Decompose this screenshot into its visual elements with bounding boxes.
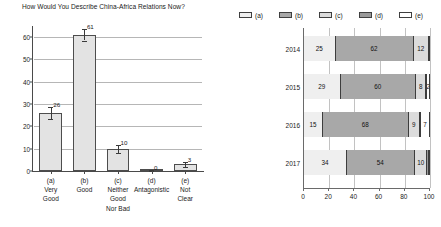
right-x-axis xyxy=(303,188,430,189)
y-axis-tick-label: 40 xyxy=(23,78,30,85)
legend-swatch-icon xyxy=(399,12,412,18)
x-axis-tick-label: 40 xyxy=(350,193,357,200)
legend-label: (d) xyxy=(375,12,383,19)
stacked-bar-segment: 10 xyxy=(415,150,428,175)
stacked-bar-segment: 68 xyxy=(323,112,409,137)
x-axis-tick-mark xyxy=(152,171,153,174)
error-bar xyxy=(84,29,85,40)
segment-value-label: 9 xyxy=(412,121,416,128)
y-axis-tick-label: 50 xyxy=(23,56,30,63)
y-axis-tick-mark xyxy=(30,104,33,105)
bar-value-label: 61 xyxy=(87,23,94,30)
y-axis-tick-mark xyxy=(30,59,33,60)
right-chart-legend: (a)(b)(c)(d)(e) xyxy=(239,9,439,21)
legend-swatch-icon xyxy=(239,12,252,18)
stacked-bar-chart-panel: (a)(b)(c)(d)(e) 256212201429608220151568… xyxy=(215,0,441,227)
x-axis-tick-label: 60 xyxy=(375,193,382,200)
x-axis-tick-mark xyxy=(303,188,304,191)
segment-value-label: 12 xyxy=(417,45,424,52)
legend-swatch-icon xyxy=(319,12,332,18)
error-bar-cap xyxy=(82,41,87,42)
legend-label: (e) xyxy=(415,12,423,19)
y-axis-tick-label: 20 xyxy=(23,123,30,130)
x-axis-tick-label: 0 xyxy=(301,193,305,200)
stacked-bar-segment: 15 xyxy=(304,112,323,137)
y-axis-tick-mark xyxy=(30,126,33,127)
row-year-label: 2016 xyxy=(286,121,300,128)
x-axis-tick-mark xyxy=(379,188,380,191)
stacked-bar-segment: 12 xyxy=(414,36,429,61)
row-year-label: 2015 xyxy=(286,83,300,90)
bar-value-label: 0 xyxy=(154,164,157,171)
y-axis-tick-mark xyxy=(30,171,33,172)
legend-item[interactable]: (d) xyxy=(359,12,399,19)
bar-chart-panel: How Would You Describe China-Africa Rela… xyxy=(0,0,215,227)
stacked-bar-segment: 34 xyxy=(304,150,347,175)
x-axis-tick-mark xyxy=(185,171,186,174)
segment-value-label: 10 xyxy=(417,159,424,166)
row-year-label: 2017 xyxy=(286,159,300,166)
stacked-bar-segment: 54 xyxy=(347,150,415,175)
y-axis-tick-mark xyxy=(30,37,33,38)
x-axis-category-label: (a)VeryGood xyxy=(43,176,59,204)
stacked-bar-row: 2960822015 xyxy=(304,74,430,99)
gridline xyxy=(34,82,202,83)
x-axis-tick-mark xyxy=(404,188,405,191)
stacked-bar-segment: 8 xyxy=(416,74,426,99)
legend-swatch-icon xyxy=(279,12,292,18)
stacked-bar-segment xyxy=(429,150,430,175)
bar xyxy=(73,35,96,171)
x-axis-tick-mark xyxy=(353,188,354,191)
stacked-bar-row: 2562122014 xyxy=(304,36,430,61)
stacked-bar-segment: 9 xyxy=(409,112,420,137)
x-axis-tick-mark xyxy=(51,171,52,174)
legend-swatch-icon xyxy=(359,12,372,18)
y-axis-tick-mark xyxy=(30,81,33,82)
legend-label: (b) xyxy=(295,12,303,19)
x-axis-category-label: (c)NeitherGoodNor Bad xyxy=(106,176,130,213)
figure-root: How Would You Describe China-Africa Rela… xyxy=(0,0,441,227)
x-axis-tick-label: 80 xyxy=(400,193,407,200)
error-bar-cap xyxy=(48,119,53,120)
segment-value-label: 60 xyxy=(374,83,381,90)
error-bar xyxy=(118,145,119,153)
legend-item[interactable]: (a) xyxy=(239,12,279,19)
stacked-bar-segment xyxy=(429,36,430,61)
stacked-bar-segment: 60 xyxy=(341,74,417,99)
legend-label: (c) xyxy=(335,12,343,19)
bar-value-label: 3 xyxy=(188,156,191,163)
stacked-bar-segment: 29 xyxy=(304,74,341,99)
left-plot-area: 26611003 xyxy=(34,26,202,171)
segment-value-label: 2 xyxy=(427,83,430,90)
x-axis-category-label: (e)NotClear xyxy=(177,176,193,204)
segment-value-label: 34 xyxy=(321,159,328,166)
segment-value-label: 8 xyxy=(419,83,423,90)
bar-value-label: 10 xyxy=(121,139,128,146)
segment-value-label: 25 xyxy=(316,45,323,52)
left-chart-title: How Would You Describe China-Africa Rela… xyxy=(22,3,212,10)
x-axis-tick-label: 100 xyxy=(424,193,435,200)
x-axis-tick-mark xyxy=(429,188,430,191)
x-axis-tick-mark xyxy=(118,171,119,174)
stacked-bar-row: 3454102017 xyxy=(304,150,430,175)
stacked-bar-segment: 7 xyxy=(421,112,430,137)
gridline xyxy=(34,37,202,38)
segment-value-label: 7 xyxy=(423,121,427,128)
stacked-bar-segment: 25 xyxy=(304,36,336,61)
legend-item[interactable]: (e) xyxy=(399,12,439,19)
segment-value-label: 54 xyxy=(377,159,384,166)
error-bar xyxy=(51,107,52,118)
right-plot-area: 2562122014296082201515689720163454102017 xyxy=(303,28,429,188)
y-axis-tick-label: 60 xyxy=(23,34,30,41)
segment-value-label: 62 xyxy=(371,45,378,52)
stacked-bar-segment: 62 xyxy=(336,36,414,61)
stacked-bar-segment: 2 xyxy=(427,74,430,99)
row-year-label: 2014 xyxy=(286,45,300,52)
error-bar-cap xyxy=(116,153,121,154)
legend-item[interactable]: (c) xyxy=(319,12,359,19)
legend-item[interactable]: (b) xyxy=(279,12,319,19)
segment-value-label: 29 xyxy=(318,83,325,90)
y-axis-tick-label: 30 xyxy=(23,101,30,108)
x-axis-tick-mark xyxy=(328,188,329,191)
error-bar-cap xyxy=(183,167,188,168)
